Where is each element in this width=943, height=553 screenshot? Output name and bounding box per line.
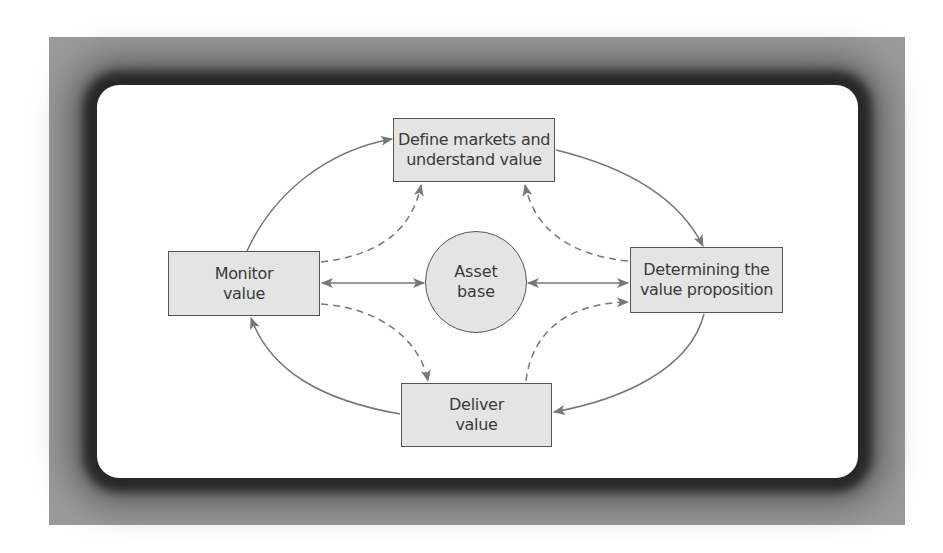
node-determining-label: Determining the value proposition	[640, 260, 773, 300]
node-define-markets: Define markets and understand value	[393, 118, 555, 182]
edge-deliver-to-determining-dashed	[526, 302, 628, 381]
edge-determining-to-deliver	[554, 314, 704, 412]
edge-determining-to-define-dashed	[525, 185, 628, 261]
node-asset-base-label: Asset base	[454, 262, 498, 302]
node-define-markets-label: Define markets and understand value	[398, 130, 550, 170]
edge-define-to-determining	[556, 150, 703, 246]
node-asset-base: Asset base	[425, 231, 527, 333]
node-determining-value-proposition: Determining the value proposition	[630, 247, 783, 313]
edge-monitor-to-deliver-dashed	[321, 304, 428, 381]
node-deliver-value-label: Deliver value	[449, 395, 504, 435]
node-monitor-value-label: Monitor value	[215, 264, 274, 304]
node-deliver-value: Deliver value	[401, 383, 552, 447]
node-monitor-value: Monitor value	[168, 251, 320, 316]
edge-monitor-to-define-dashed	[321, 185, 421, 262]
edge-monitor-to-define	[247, 139, 392, 251]
edge-deliver-to-monitor	[251, 318, 400, 414]
